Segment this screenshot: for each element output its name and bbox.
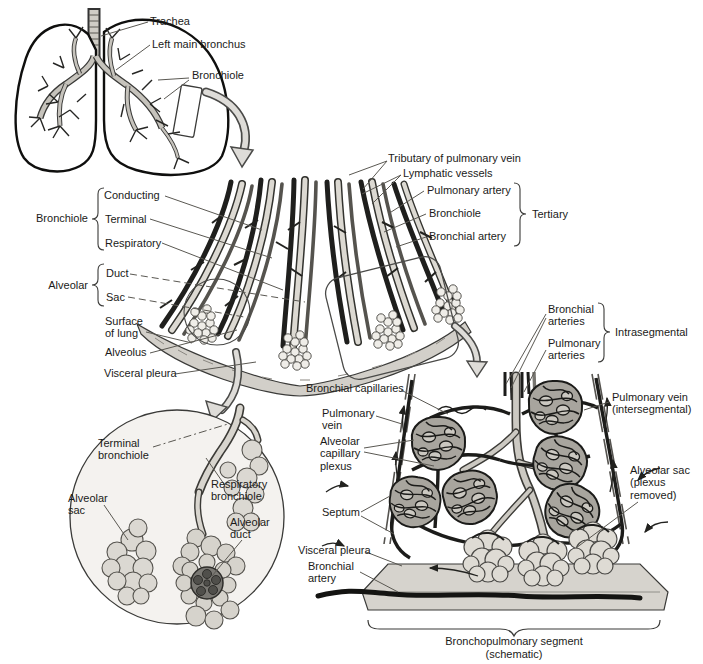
lymphatic-vessels-label: Lymphatic vessels [403,167,492,179]
segment-caption-brace [368,620,660,636]
conducting-label: Conducting [104,189,160,201]
tributary-pulmonary-vein-label: Tributary of pulmonary vein [388,152,521,164]
pulmonary-arteries-label: Pulmonary arteries [548,337,606,362]
bronchiole-label-lungs: Bronchiole [192,69,244,81]
bronchiole-group-bracket [92,188,104,250]
sac-label: Sac [106,291,125,303]
segment-caption-line1: Bronchopulmonary segment [384,635,644,647]
alveolar-group-bracket [92,264,104,306]
bronchial-arteries-label: Bronchial arteries [548,303,600,328]
bronchiole-group-label: Bronchiole [30,212,88,224]
lungs-drawing [16,8,229,175]
lung-anatomy-figure: Trachea Left main bronchus Bronchiole Br… [0,0,703,664]
tertiary-group-bracket [514,183,526,246]
alveolar-sac-label-inset: Alveolar sac [68,492,114,517]
duct-label: Duct [106,267,129,279]
wedge-drawing [137,180,471,396]
terminal-label: Terminal [105,213,147,225]
alveolus-label: Alveolus [105,346,147,358]
septum-label: Septum [322,506,360,518]
terminal-bronchiole-label: Terminal bronchiole [98,437,158,462]
pulmonary-artery-label: Pulmonary artery [427,184,511,196]
pulmonary-vein-intersegmental-label: Pulmonary vein (intersegmental) [612,391,700,416]
left-main-bronchus-label: Left main bronchus [152,38,246,50]
alveolar-sac-plexus-removed-label: Alveolar sac (plexus removed) [630,464,696,501]
respiratory-label: Respiratory [105,237,161,249]
intrasegmental-group-label: Intrasegmental [615,326,688,338]
bronchial-artery-label-segment: Bronchial artery [308,560,360,585]
visceral-pleura-label-wedge: Visceral pleura [104,367,177,379]
respiratory-bronchiole-label: Respiratory bronchiole [211,478,279,503]
segment-caption-line2: (schematic) [384,648,644,660]
alveolar-capillary-plexus-label: Alveolar capillary plexus [320,435,370,472]
trachea-label: Trachea [150,15,190,27]
visceral-pleura-label-segment: Visceral pleura [298,544,371,556]
bronchial-capillaries-label: Bronchial capillaries [306,382,404,394]
magnify-arrow-wedge-to-segment [455,326,487,377]
surface-of-lung-label: Surface of lung [105,315,153,340]
alveolar-duct-label-inset: Alveolar duct [230,516,276,541]
bronchial-artery-label-tertiary: Bronchial artery [429,230,506,242]
bronchiole-label-tertiary: Bronchiole [429,207,481,219]
tertiary-group-label: Tertiary [532,208,568,220]
alveolar-group-label: Alveolar [40,279,88,291]
pulmonary-vein-label: Pulmonary vein [322,407,380,432]
